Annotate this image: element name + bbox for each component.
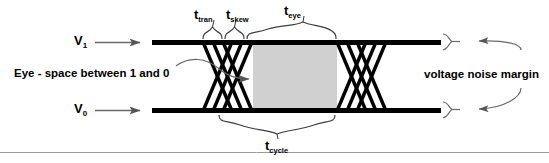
v1-label-subscript: 1 — [83, 41, 87, 50]
t-eye-brace-right — [303, 22, 336, 39]
eye-caption: Eye - space between 1 and 0 — [14, 68, 169, 80]
t-skew-label: tskew — [226, 8, 249, 21]
v1-label: V1 — [74, 34, 87, 47]
t-cycle-brace-right — [277, 115, 335, 134]
v0-label-base: V — [74, 101, 83, 116]
t-cycle-label: tcycle — [265, 139, 288, 152]
noise-margin-top-brace — [443, 34, 452, 50]
t-tran-label-subscript: tran — [198, 15, 212, 24]
t-skew-label-subscript: skew — [230, 15, 248, 24]
noise-margin-caption: voltage noise margin — [424, 69, 539, 81]
noise-margin-bottom-leader — [479, 88, 521, 109]
right-transition-crossings — [337, 42, 386, 111]
noise-margin-bottom-brace — [443, 102, 452, 118]
t-eye-leader — [303, 16, 304, 22]
v1-label-base: V — [74, 33, 83, 48]
noise-margin-top-leader — [479, 41, 521, 50]
eye-diagram-figure: V1 V0 Eye - space between 1 and 0 ttran … — [0, 0, 549, 163]
v0-label: V0 — [74, 102, 87, 115]
t-skew-brace — [225, 27, 244, 39]
t-cycle-label-subscript: cycle — [269, 146, 288, 155]
t-eye-label-subscript: eye — [288, 11, 301, 20]
t-eye-brace-left — [247, 22, 303, 39]
t-eye-label: teye — [284, 4, 301, 17]
t-tran-label: ttran — [194, 8, 213, 21]
left-transition-crossings — [203, 42, 252, 111]
t-tran-brace — [203, 27, 222, 39]
top-signal-rail — [152, 40, 441, 45]
t-cycle-brace-left — [219, 115, 277, 134]
bottom-signal-rail — [152, 108, 441, 113]
eye-opening-region — [253, 43, 337, 110]
v0-label-subscript: 0 — [83, 109, 87, 118]
